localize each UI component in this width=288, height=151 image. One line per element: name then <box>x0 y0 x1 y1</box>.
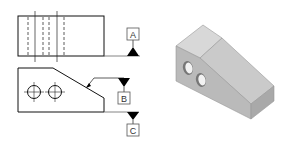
datum-b-triangle-icon <box>118 78 130 87</box>
front-view <box>18 68 104 112</box>
hidden-lines <box>28 17 64 55</box>
datum-c-label: C <box>130 126 137 136</box>
datum-b-leader-arrow-icon <box>86 83 91 88</box>
datum-b-label: B <box>121 94 127 104</box>
hole-1 <box>24 82 44 102</box>
datum-c: C <box>104 112 139 136</box>
top-view <box>18 11 104 62</box>
isometric-view <box>176 25 274 119</box>
datum-b-leader <box>86 78 124 88</box>
hole-2 <box>45 82 65 102</box>
drawing-canvas: A B C <box>0 0 288 151</box>
datum-a-label: A <box>130 30 136 40</box>
center-lines <box>35 11 57 62</box>
top-view-outline <box>18 16 104 56</box>
datum-c-triangle-icon <box>127 112 139 120</box>
datum-a: A <box>104 28 140 56</box>
datum-a-triangle-icon <box>127 47 139 56</box>
